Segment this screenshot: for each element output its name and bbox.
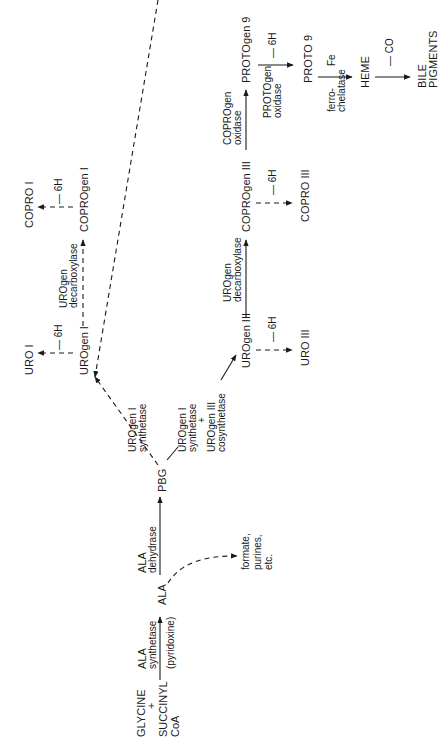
node-uro-iii: URO III (299, 329, 311, 366)
arrow-urogen-iii-cosynthetase (221, 355, 236, 380)
enzyme-coprogen-oxidase: COPROgen oxidase (222, 92, 243, 145)
enzyme-urogen-decarboxylase-i: UROgen decarboxylase (58, 243, 79, 308)
enzyme-ferrochelatase: ferro- chelatase (326, 69, 347, 112)
svg-text:decarboxylase: decarboxylase (68, 243, 79, 308)
label-fe: Fe (326, 54, 337, 66)
label-minus-6h-uro-iii: — 6H (267, 316, 278, 342)
node-urogen-iii: UROgen III (240, 313, 252, 368)
arrow-urogen-i-synthetase (95, 0, 158, 377)
enzyme-ala-dehydrase: ALA dehydrase (136, 526, 158, 573)
svg-text:synthetase: synthetase (187, 403, 198, 452)
svg-text:+: + (145, 703, 157, 709)
svg-text:GLYCINE: GLYCINE (135, 690, 147, 737)
svg-text:cosynthetase: cosynthetase (216, 393, 227, 452)
node-side-products: formate, purines, etc. (240, 533, 274, 570)
node-copro-iii: COPRO III (299, 169, 311, 222)
node-bile-pigments: BILE PIGMENTS (416, 31, 439, 88)
enzyme-combo: UROgen I synthetase + UROgen III cosynth… (177, 393, 227, 452)
node-glycine-succinyl-coa: GLYCINE + SUCCINYL CoA (135, 681, 181, 737)
label-minus-6h-protogen: — 6H (267, 32, 278, 58)
label-minus-6h-uro-i: — 6H (53, 324, 64, 350)
svg-text:PIGMENTS: PIGMENTS (427, 31, 439, 88)
svg-text:synthetase: synthetase (147, 620, 158, 669)
node-urogen-i: UROgen I (78, 326, 90, 375)
node-ala: ALA (156, 584, 168, 605)
enzyme-protogen-oxidase: PROTOgen oxidase (262, 66, 283, 118)
svg-text:oxidase: oxidase (272, 83, 283, 118)
svg-text:purines,: purines, (252, 534, 263, 570)
pathway-diagram: GLYCINE + SUCCINYL CoA ALA synthetase (p… (0, 0, 442, 743)
arrow-side-products (168, 556, 237, 583)
svg-text:(pyridoxine): (pyridoxine) (165, 617, 176, 669)
node-pbg: PBG (156, 469, 168, 492)
enzyme-ala-synthetase: ALA synthetase (pyridoxine) (136, 617, 176, 669)
label-minus-co: — CO (384, 38, 395, 66)
label-minus-6h-copro-i: — 6H (53, 178, 64, 204)
label-minus-6h-copro-iii: — 6H (267, 169, 278, 195)
node-coprogen-i: COPROgen I (78, 167, 90, 232)
node-coprogen-iii: COPROgen III (240, 161, 252, 232)
svg-text:chelatase: chelatase (336, 69, 347, 112)
svg-text:oxidase: oxidase (232, 110, 243, 145)
svg-text:etc.: etc. (263, 554, 274, 570)
svg-text:synthetase: synthetase (137, 403, 148, 452)
node-heme: HEME (359, 56, 371, 88)
node-protogen-9: PROTOgen 9 (240, 17, 252, 83)
svg-text:decarboxylase: decarboxylase (232, 237, 243, 302)
node-uro-i: URO I (23, 344, 35, 375)
svg-text:dehydrase: dehydrase (147, 526, 158, 573)
enzyme-urogen-decarboxylase-iii: UROgen decarboxylase (222, 237, 243, 302)
enzyme-urogen-i-synthetase: UROgen I synthetase (127, 403, 148, 452)
svg-text:formate,: formate, (240, 533, 251, 570)
svg-text:CoA: CoA (169, 715, 181, 737)
node-proto-9: PROTO 9 (302, 35, 314, 83)
node-copro-i: COPRO I (23, 182, 35, 228)
svg-text:SUCCINYL: SUCCINYL (157, 681, 169, 737)
